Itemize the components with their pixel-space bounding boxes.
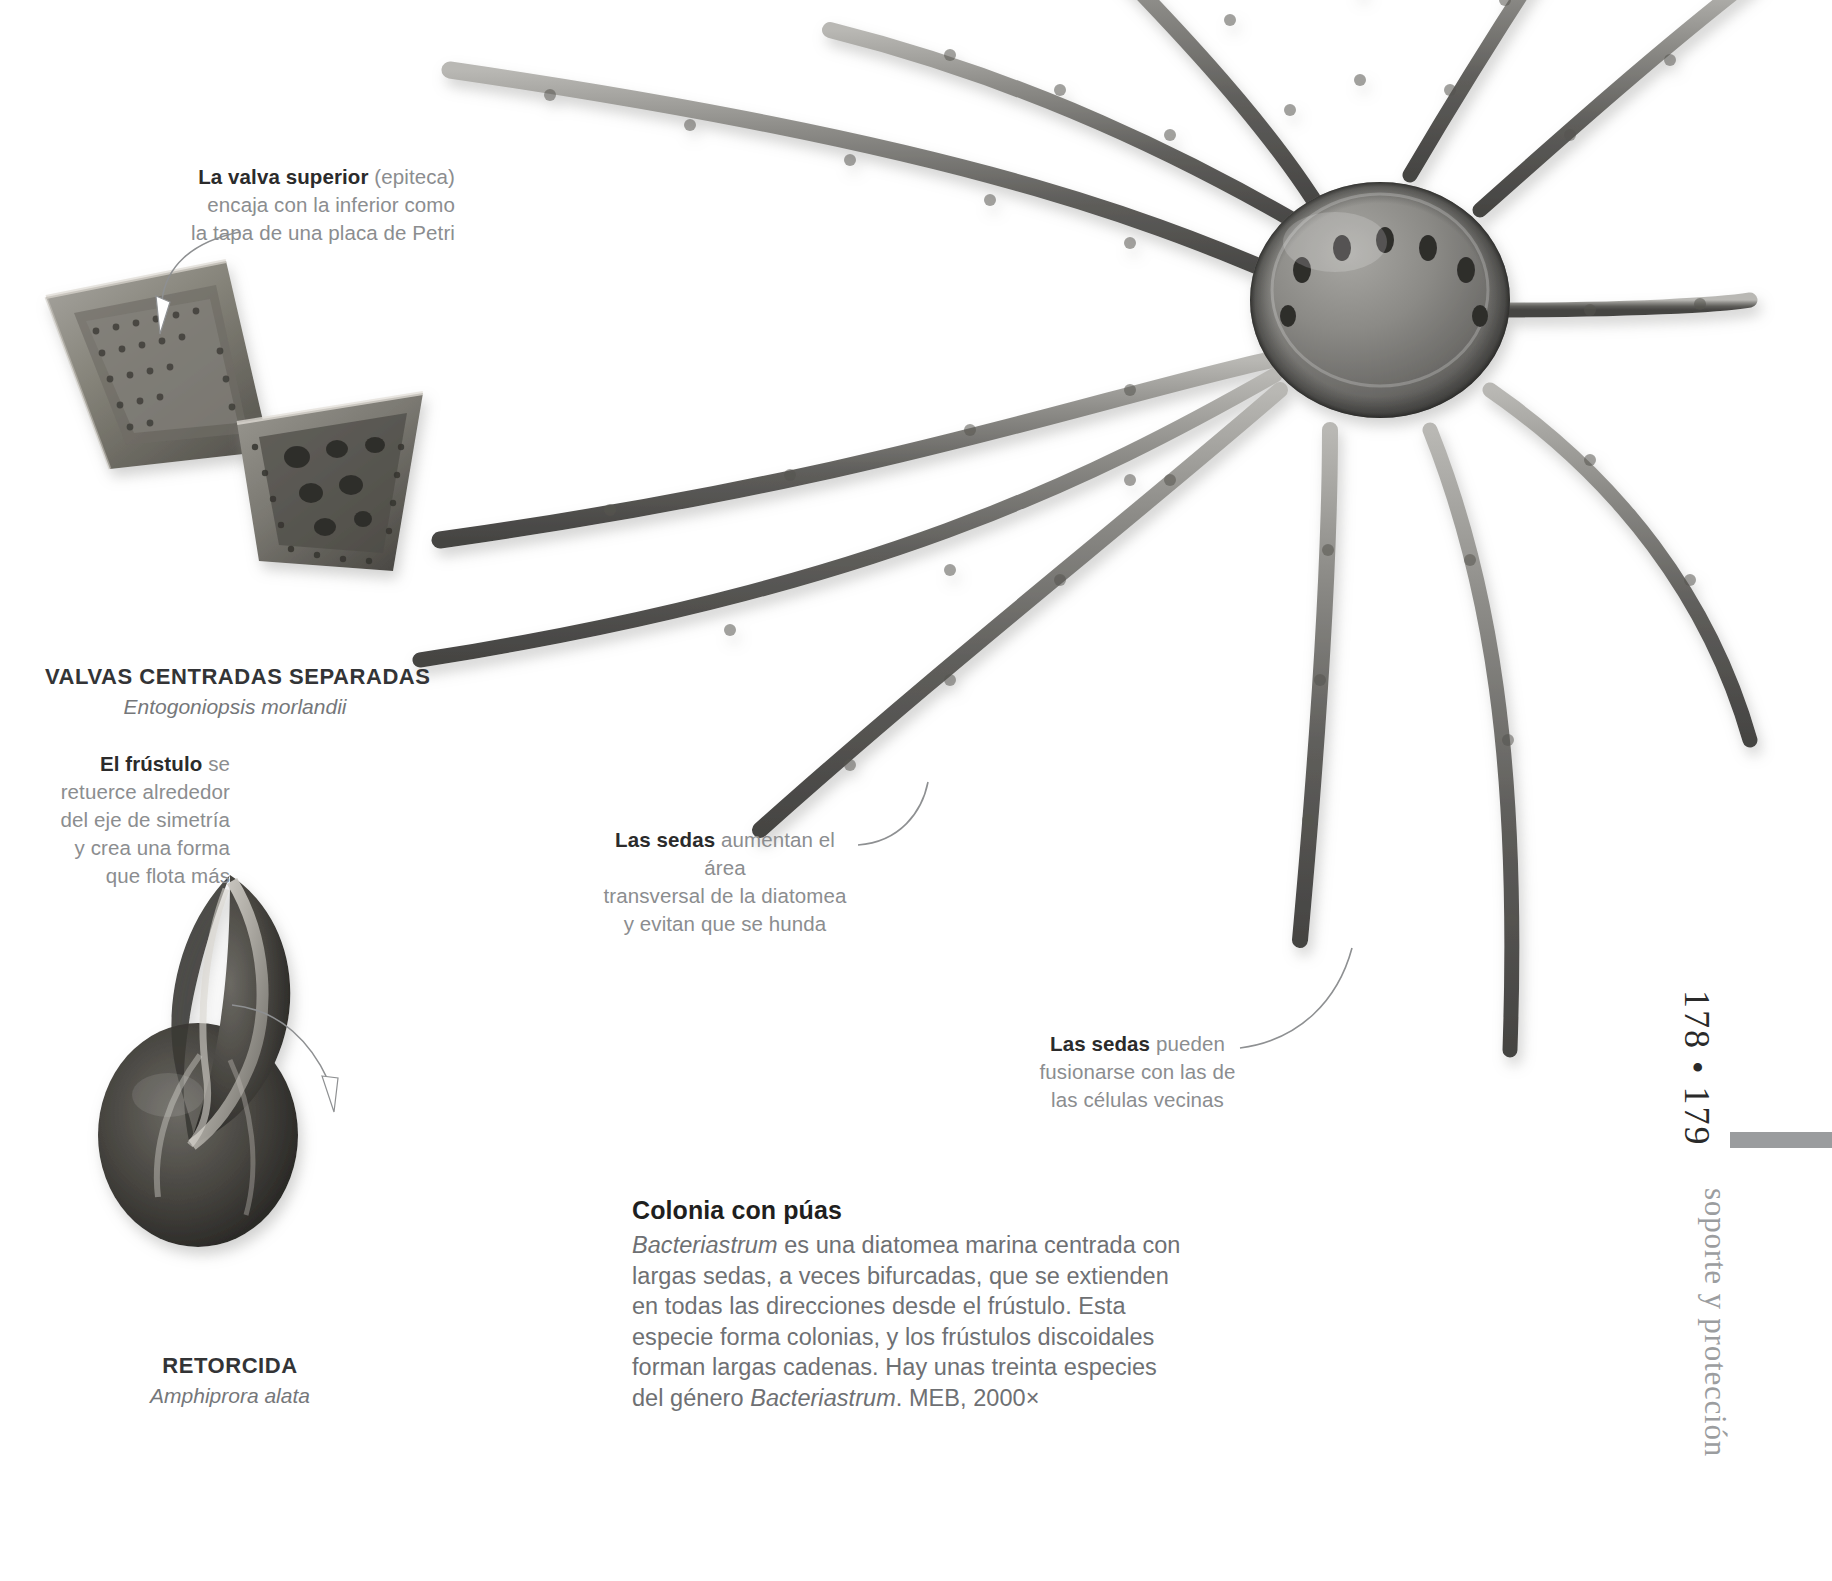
callout-sedas-area: Las sedas aumentan el área transversal d…	[600, 826, 850, 938]
species-name: Bacteriastrum	[750, 1385, 896, 1411]
book-page-spread: La valva superior (epiteca) encaja con l…	[0, 0, 1832, 1581]
callout-sedas-area-line-3: y evitan que se hunda	[624, 912, 827, 935]
callout-frustulo-line-5: que flota más	[106, 864, 230, 887]
callout-valva-superior: La valva superior (epiteca) encaja con l…	[180, 163, 455, 247]
page-folio: 178 • 179	[1676, 990, 1718, 1147]
body-text-block: Colonia con púas Bacteriastrum es una di…	[632, 1196, 1192, 1413]
specimen-name-valvas: VALVAS CENTRADAS SEPARADAS	[45, 664, 425, 690]
callout-valva-superior-line-1: La valva superior (epiteca)	[198, 165, 455, 188]
callout-valva-superior-line-3: la tapa de una placa de Petri	[191, 221, 455, 244]
callout-frustulo-line-1: El frústulo se	[100, 752, 230, 775]
section-title: soporte y protección	[1697, 1188, 1733, 1457]
callout-sedas-fusion: Las sedas pueden fusionarse con las de l…	[1035, 1030, 1240, 1114]
margin-rule	[1730, 1132, 1832, 1148]
body-paragraph: Bacteriastrum es una diatomea marina cen…	[632, 1230, 1192, 1413]
callout-frustulo-line-4: y crea una forma	[75, 836, 230, 859]
callout-frustulo-line-3: del eje de simetría	[61, 808, 230, 831]
callout-frustulo-line-2: retuerce alrededor	[61, 780, 230, 803]
body-heading: Colonia con púas	[632, 1196, 1192, 1225]
callout-frustulo: El frústulo se retuerce alrededor del ej…	[40, 750, 230, 890]
species-name: Bacteriastrum	[632, 1232, 778, 1258]
specimen-latin-retorcida: Amphiprora alata	[80, 1384, 380, 1408]
callout-sedas-fusion-line-2: fusionarse con las de	[1040, 1060, 1236, 1083]
specimen-name-retorcida: RETORCIDA	[80, 1353, 380, 1379]
specimen-label-valvas: VALVAS CENTRADAS SEPARADAS Entogoniopsis…	[45, 664, 425, 719]
callout-sedas-fusion-line-3: las células vecinas	[1051, 1088, 1224, 1111]
specimen-label-retorcida: RETORCIDA Amphiprora alata	[80, 1353, 380, 1408]
callout-sedas-area-line-1: Las sedas aumentan el área	[615, 828, 835, 879]
callout-sedas-fusion-line-1: Las sedas pueden	[1050, 1032, 1225, 1055]
paragraph-text: . MEB, 2000×	[896, 1385, 1040, 1411]
callout-valva-superior-line-2: encaja con la inferior como	[207, 193, 455, 216]
specimen-latin-valvas: Entogoniopsis morlandii	[45, 695, 425, 719]
callout-sedas-area-line-2: transversal de la diatomea	[603, 884, 846, 907]
